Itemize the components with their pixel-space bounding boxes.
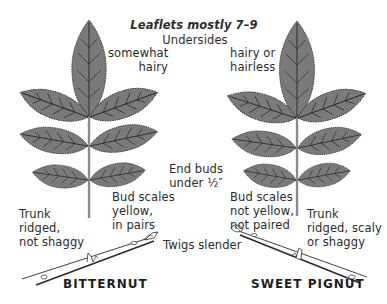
bitternut-underside-note: somewhat hairy bbox=[108, 46, 168, 74]
twigs-note: Twigs slender bbox=[163, 238, 242, 252]
bitternut-bud-line: yellow, bbox=[112, 204, 175, 218]
end-buds-note: End buds under ½″ bbox=[160, 162, 232, 190]
bitternut-underside-line: hairy bbox=[108, 60, 168, 74]
pignut-underside-line: hairy or bbox=[230, 46, 275, 60]
bitternut-bud-note: Bud scales yellow, in pairs bbox=[112, 190, 175, 232]
bitternut-underside-line: somewhat bbox=[108, 46, 168, 60]
bitternut-trunk-line: not shaggy bbox=[19, 235, 84, 249]
pignut-bud-line: not paired bbox=[230, 218, 294, 232]
pignut-underside-line: hairless bbox=[230, 60, 275, 74]
bitternut-bud-line: Bud scales bbox=[112, 190, 175, 204]
leaflets-title: Leaflets mostly 7–9 bbox=[128, 18, 260, 32]
pignut-bud-line: not yellow, bbox=[230, 204, 294, 218]
pignut-trunk-line: Trunk bbox=[307, 207, 382, 221]
pignut-trunk-line: or shaggy bbox=[307, 235, 382, 249]
bitternut-bud-line: in pairs bbox=[112, 218, 175, 232]
pignut-bud-line: Bud scales bbox=[230, 190, 294, 204]
hickory-comparison-illustration: Leaflets mostly 7–9 Undersides somewhat … bbox=[0, 0, 387, 304]
species-label-bitternut: BITTERNUT bbox=[63, 277, 148, 291]
undersides-heading: Undersides bbox=[155, 33, 235, 47]
pignut-trunk-line: ridged, scaly bbox=[307, 221, 382, 235]
bitternut-trunk-line: ridged, bbox=[19, 221, 84, 235]
pignut-bud-note: Bud scales not yellow, not paired bbox=[230, 190, 294, 232]
species-label-sweet-pignut: SWEET PIGNUT bbox=[251, 277, 365, 291]
pignut-underside-note: hairy or hairless bbox=[230, 46, 275, 74]
end-buds-line: under ½″ bbox=[160, 176, 232, 190]
end-buds-line: End buds bbox=[160, 162, 232, 176]
pignut-trunk-note: Trunk ridged, scaly or shaggy bbox=[307, 207, 382, 249]
bitternut-trunk-note: Trunk ridged, not shaggy bbox=[19, 207, 84, 249]
bitternut-trunk-line: Trunk bbox=[19, 207, 84, 221]
